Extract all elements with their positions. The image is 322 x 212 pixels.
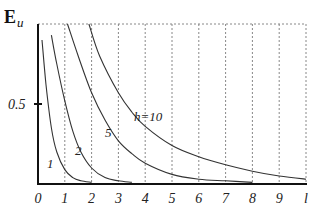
- x-tick-labels: 0123456789l: [35, 191, 309, 206]
- y-axis-label-sub: u: [17, 15, 24, 30]
- grid-lines: [65, 24, 306, 184]
- x-tick-label: 5: [169, 191, 176, 206]
- curve-5: [68, 24, 253, 182]
- x-tick-label: 6: [195, 191, 202, 206]
- curve-label-h10: h=10: [134, 109, 163, 124]
- x-tick-label: 3: [114, 191, 122, 206]
- y-tick-label: 0.5: [8, 97, 26, 112]
- x-tick-label: 4: [142, 191, 149, 206]
- x-tick-label: 0: [35, 191, 42, 206]
- curve-label-2: 2: [75, 143, 82, 158]
- x-tick-label: 9: [276, 191, 283, 206]
- x-tick-label: 7: [222, 191, 230, 206]
- curve-label-5: 5: [105, 125, 112, 140]
- chart: E u 0.5 0123456789l 1 2 5 h=10: [0, 0, 322, 212]
- y-axis-label-main: E: [4, 7, 16, 27]
- curve-h10: [89, 24, 306, 179]
- x-tick-label: l: [304, 191, 308, 206]
- x-tick-label: 1: [61, 191, 68, 206]
- x-tick-label: 8: [249, 191, 256, 206]
- x-tick-label: 2: [88, 191, 95, 206]
- curve-label-1: 1: [47, 156, 54, 171]
- data-curves: [42, 24, 306, 182]
